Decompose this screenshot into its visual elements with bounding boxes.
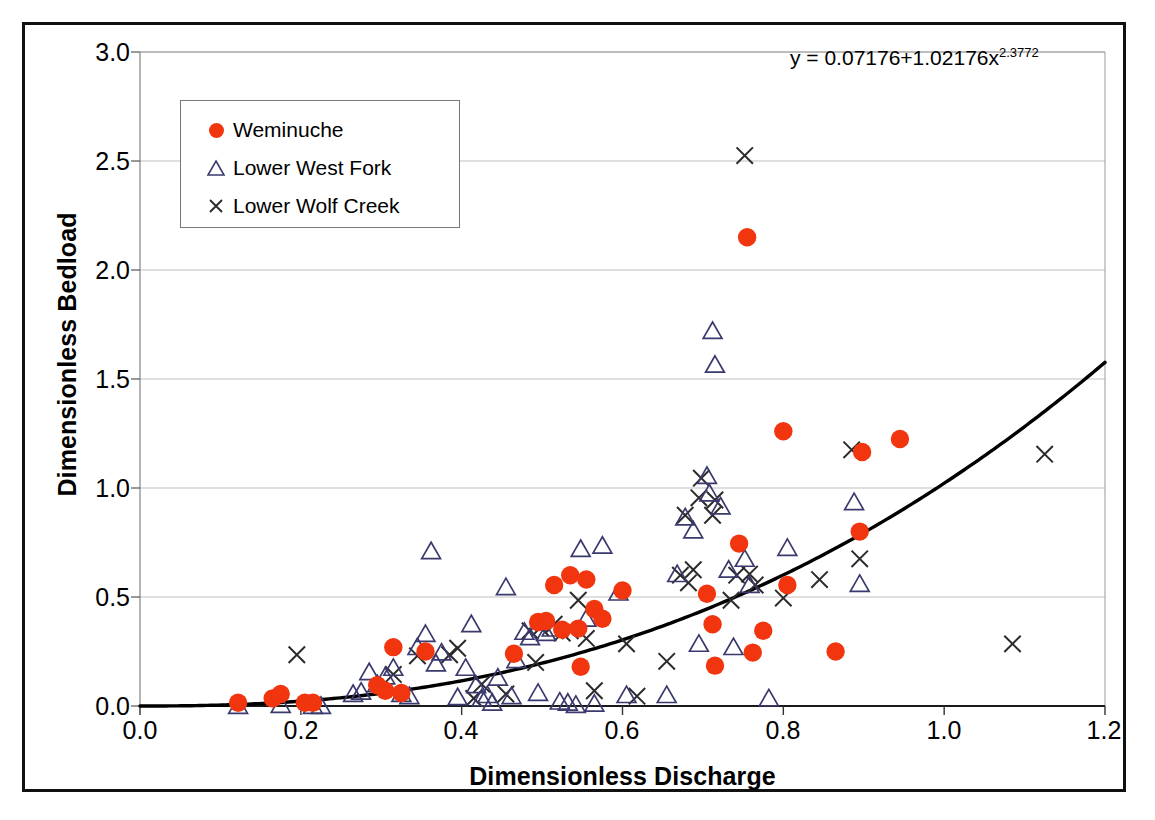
legend-label-weminuche: Weminuche [233,118,344,142]
chart-page: 3.0 2.5 2.0 1.5 1.0 0.5 0.0 0.0 0.2 0.4 … [0,0,1155,820]
x-tick-0.6: 0.6 [582,716,662,745]
scatter-plot-canvas [0,0,1155,820]
x-axis-title: Dimensionless Discharge [140,762,1105,791]
x-tick-0.0: 0.0 [100,716,180,745]
trendline [140,362,1105,706]
legend: Weminuche Lower West Fork Lower Wolf Cre… [180,100,460,228]
y-axis-title-wrap: Dimensionless Bedload [38,0,78,760]
equation-base: y = 0.07176+1.02176x [790,46,999,69]
x-tick-0.8: 0.8 [743,716,823,745]
x-tick-0.2: 0.2 [261,716,341,745]
x-tick-1.0: 1.0 [904,716,984,745]
legend-label-lower-wolf-creek: Lower Wolf Creek [233,194,400,218]
legend-item-weminuche: Weminuche [199,111,459,149]
legend-label-lower-west-fork: Lower West Fork [233,156,391,180]
x-tick-0.4: 0.4 [421,716,501,745]
triangle-marker-icon [199,159,233,177]
legend-item-lower-wolf-creek: Lower Wolf Creek [199,187,459,225]
x-marker-icon [199,196,233,216]
x-tick-1.2: 1.2 [1064,716,1144,745]
series-lower-west-fork [229,322,869,713]
equation-exponent: 2.3772 [999,45,1039,60]
legend-item-lower-west-fork: Lower West Fork [199,149,459,187]
y-axis-title: Dimensionless Bedload [53,190,82,520]
regression-equation: y = 0.07176+1.02176x2.3772 [790,45,1039,70]
circle-marker-icon [199,123,233,138]
